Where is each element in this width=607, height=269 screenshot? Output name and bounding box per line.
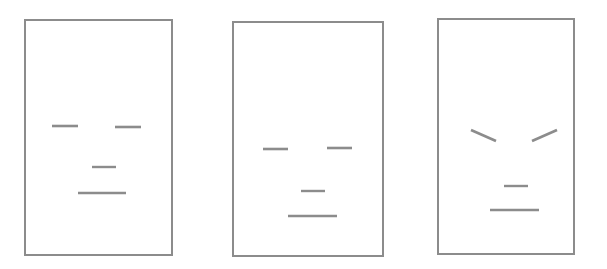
panel-3-frame: [438, 19, 574, 254]
panel-3: [438, 19, 574, 254]
panel-2: [233, 22, 383, 256]
three-panel-face-diagram: [0, 0, 607, 269]
panel-1: [25, 20, 172, 255]
panel-2-frame: [233, 22, 383, 256]
panel-1-frame: [25, 20, 172, 255]
